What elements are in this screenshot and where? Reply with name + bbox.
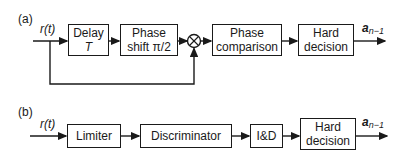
phase-comparison-line1: Phase [216,26,278,40]
delay-label: Delay [73,26,104,40]
input-label-b: r(t) [40,118,55,131]
phase-shift-line1: Phase [127,26,171,40]
phase-comparison-block: Phase comparison [212,24,282,56]
input-label-a: r(t) [40,23,55,36]
multiplier-icon [187,34,201,48]
panel-label-a: (a) [18,13,33,26]
hard-decision-line2-a: decision [304,40,348,54]
hard-decision-block-a: Hard decision [298,24,354,56]
integrate-dump-block: I&D [250,124,283,148]
discriminator-label: Discriminator [151,129,221,143]
integrate-dump-label: I&D [256,129,276,143]
limiter-block: Limiter [67,124,121,148]
hard-decision-line2-b: decision [306,134,350,148]
limiter-label: Limiter [76,129,112,143]
phase-shift-line2: shift π/2 [127,40,171,54]
delay-block: Delay T [68,24,109,56]
phase-comparison-line2: comparison [216,40,278,54]
output-label-a: an−1 [362,22,384,38]
phase-shift-block: Phase shift π/2 [120,24,178,56]
delay-T-label: T [73,40,104,54]
hard-decision-line1-b: Hard [306,120,350,134]
hard-decision-block-b: Hard decision [300,118,356,150]
panel-label-b: (b) [18,106,33,119]
output-label-b: an−1 [362,116,384,132]
hard-decision-line1-a: Hard [304,26,348,40]
discriminator-block: Discriminator [140,124,232,148]
